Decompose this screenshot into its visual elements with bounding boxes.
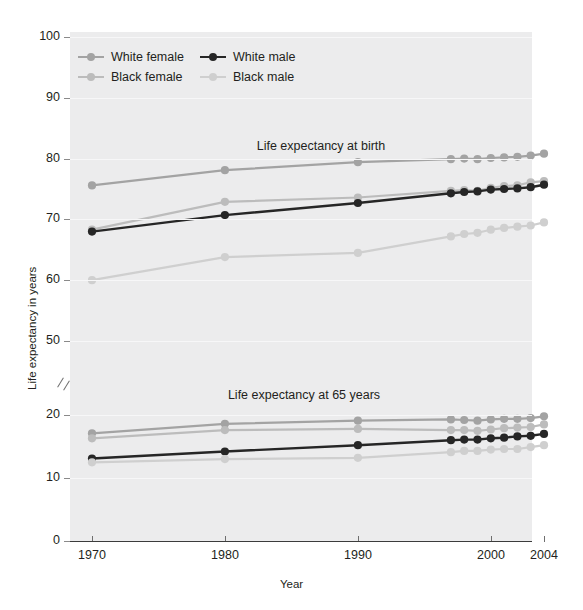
data-point: [513, 432, 521, 440]
data-point: [460, 447, 468, 455]
data-point: [221, 447, 229, 455]
chart-figure: 100908070605020100 19701980199020002004 …: [0, 0, 583, 610]
legend-item-black-male[interactable]: Black male: [200, 70, 294, 84]
y-tick-mark: [64, 415, 70, 416]
legend-swatch-white-male: [200, 56, 226, 58]
y-tick-mark: [64, 280, 70, 281]
data-point: [354, 249, 362, 257]
data-point: [460, 188, 468, 196]
data-point: [500, 424, 508, 432]
y-axis-label: Life expectancy in years: [26, 267, 38, 390]
data-point: [540, 412, 548, 420]
series-layer: [70, 32, 532, 541]
data-point: [447, 415, 455, 423]
gridline: [70, 219, 532, 220]
data-point: [447, 189, 455, 197]
legend-item-black-female[interactable]: Black female: [78, 70, 183, 84]
data-point: [473, 447, 481, 455]
data-point: [540, 218, 548, 226]
y-tick-label: 100: [20, 29, 60, 43]
data-point: [487, 154, 495, 162]
data-point: [354, 417, 362, 425]
data-point: [487, 186, 495, 194]
data-point: [500, 445, 508, 453]
data-point: [447, 426, 455, 434]
data-point: [527, 221, 535, 229]
y-tick-mark: [64, 159, 70, 160]
data-point: [500, 434, 508, 442]
gridline: [70, 341, 532, 342]
data-point: [447, 436, 455, 444]
axis-break-mark-lower: [63, 381, 70, 391]
y-tick-mark: [64, 341, 70, 342]
y-tick-mark: [64, 37, 70, 38]
legend-item-white-male[interactable]: White male: [200, 50, 296, 64]
data-point: [354, 441, 362, 449]
y-tick-mark: [64, 478, 70, 479]
data-point: [88, 228, 96, 236]
y-tick-label: 80: [20, 151, 60, 165]
data-point: [221, 253, 229, 261]
data-point: [487, 434, 495, 442]
data-point: [513, 424, 521, 432]
legend: White female Black female White male Bla…: [78, 50, 338, 90]
data-point: [460, 416, 468, 424]
y-tick-label: 0: [20, 533, 60, 547]
data-point: [540, 441, 548, 449]
y-tick-label: 90: [20, 90, 60, 104]
data-point: [527, 423, 535, 431]
data-point: [487, 425, 495, 433]
data-point: [540, 150, 548, 158]
data-point: [487, 226, 495, 234]
x-tick-label: 1980: [195, 548, 255, 562]
gridline: [70, 478, 532, 479]
gridline: [70, 98, 532, 99]
y-tick-label: 20: [20, 407, 60, 421]
data-point: [500, 185, 508, 193]
data-point: [460, 426, 468, 434]
legend-label-black-female: Black female: [111, 70, 183, 84]
data-point: [221, 455, 229, 463]
x-axis-label: Year: [0, 578, 583, 590]
data-point: [447, 232, 455, 240]
data-point: [513, 445, 521, 453]
data-point: [221, 426, 229, 434]
y-tick-mark: [64, 98, 70, 99]
x-tick-label: 1990: [328, 548, 388, 562]
legend-item-white-female[interactable]: White female: [78, 50, 184, 64]
data-point: [473, 427, 481, 435]
y-tick-label: 10: [20, 470, 60, 484]
x-tick-label: 2000: [461, 548, 521, 562]
data-point: [88, 458, 96, 466]
legend-swatch-white-female: [78, 56, 104, 58]
data-point: [527, 443, 535, 451]
data-point: [513, 223, 521, 231]
legend-label-white-female: White female: [111, 50, 184, 64]
legend-label-white-male: White male: [233, 50, 296, 64]
data-point: [487, 415, 495, 423]
data-point: [460, 230, 468, 238]
data-point: [500, 153, 508, 161]
data-point: [460, 436, 468, 444]
legend-label-black-male: Black male: [233, 70, 294, 84]
data-point: [447, 448, 455, 456]
data-point: [473, 229, 481, 237]
data-point: [354, 199, 362, 207]
legend-swatch-black-female: [78, 76, 104, 78]
data-point: [473, 417, 481, 425]
data-point: [473, 187, 481, 195]
data-point: [354, 425, 362, 433]
data-point: [540, 420, 548, 428]
gridline: [70, 415, 532, 416]
data-point: [540, 430, 548, 438]
data-point: [527, 183, 535, 191]
gridline: [70, 37, 532, 38]
x-tick-label: 1970: [62, 548, 122, 562]
data-point: [500, 224, 508, 232]
data-point: [221, 211, 229, 219]
x-tick-label: 2004: [514, 548, 574, 562]
data-point: [487, 446, 495, 454]
plot-area: [70, 32, 532, 541]
y-tick-mark: [64, 219, 70, 220]
data-point: [540, 181, 548, 189]
